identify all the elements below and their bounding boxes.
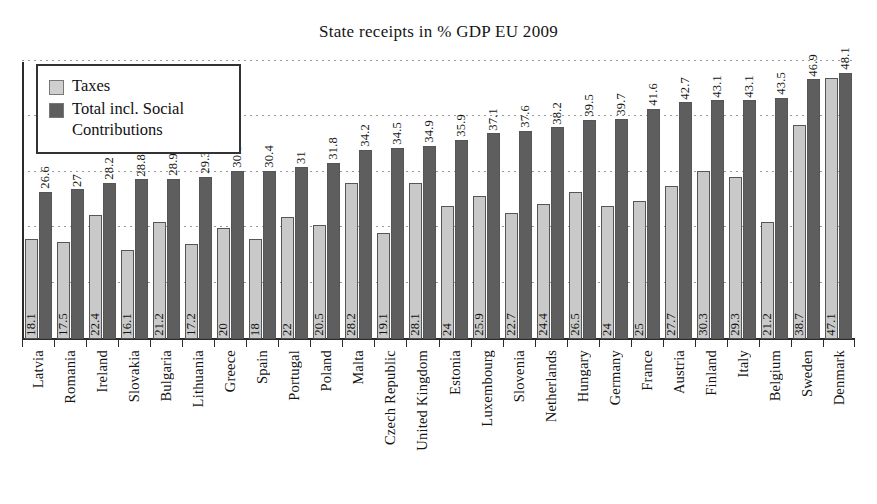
bar-taxes[interactable]	[281, 217, 294, 339]
bar-value-label-total: 30.4	[263, 145, 276, 168]
bar-value-label-taxes: 22.7	[505, 313, 518, 336]
bar-value-label-taxes: 16.1	[121, 313, 134, 336]
x-axis-tick	[439, 338, 440, 347]
bar-total[interactable]	[391, 148, 404, 339]
x-axis-tick	[471, 338, 472, 347]
bar-total[interactable]	[359, 150, 372, 339]
bar-total[interactable]	[839, 73, 852, 339]
bar-total[interactable]	[775, 98, 788, 339]
bar-taxes[interactable]	[825, 78, 838, 339]
bar-total[interactable]	[615, 119, 628, 339]
x-axis-category-label: Greece	[222, 350, 239, 392]
x-axis-tick	[182, 338, 183, 347]
bar-total[interactable]	[103, 183, 116, 339]
x-axis-tick	[118, 338, 119, 347]
bar-total[interactable]	[295, 167, 308, 339]
x-axis-category-label: Romania	[62, 350, 79, 404]
bar-value-label-taxes: 18.1	[25, 313, 38, 336]
x-axis-tick	[214, 338, 215, 347]
bar-total[interactable]	[71, 189, 84, 339]
x-axis-tick	[503, 338, 504, 347]
x-axis-tick	[150, 338, 151, 347]
bar-value-label-total: 37.1	[487, 108, 500, 131]
x-axis-category-label: Latvia	[30, 350, 47, 388]
bar-value-label-taxes: 21.2	[761, 313, 774, 336]
legend-label-taxes: Taxes	[72, 75, 110, 96]
bar-group: 2231	[281, 62, 308, 339]
bar-value-label-taxes: 28.2	[345, 313, 358, 336]
bar-total[interactable]	[519, 131, 532, 339]
bar-group: 2435.9	[441, 62, 468, 339]
bar-value-label-total: 28.8	[135, 154, 148, 177]
bar-taxes[interactable]	[601, 206, 614, 339]
x-axis-category-labels: LatviaRomaniaIrelandSlovakiaBulgariaLith…	[22, 350, 855, 500]
x-axis-category-label: Netherlands	[543, 350, 560, 422]
x-axis-tick	[854, 338, 855, 347]
bar-value-label-total: 41.6	[647, 83, 660, 106]
x-axis-category-label: Belgium	[767, 350, 784, 401]
x-axis-category-label: Poland	[318, 350, 335, 391]
x-axis-tick	[342, 338, 343, 347]
x-axis-category-label: Estonia	[447, 350, 464, 395]
bar-group: 22.737.6	[505, 62, 532, 339]
bar-taxes[interactable]	[793, 125, 806, 339]
bar-total[interactable]	[199, 177, 212, 339]
bar-value-label-taxes: 17.2	[185, 313, 198, 336]
bar-value-label-total: 34.9	[423, 120, 436, 143]
bar-value-label-total: 26.6	[39, 166, 52, 189]
bar-total[interactable]	[167, 179, 180, 339]
bar-group: 38.746.9	[793, 62, 820, 339]
bar-total[interactable]	[135, 179, 148, 339]
bar-total[interactable]	[263, 171, 276, 339]
x-axis-ticks	[22, 338, 855, 347]
bar-value-label-taxes: 38.7	[793, 313, 806, 336]
x-axis-category-label: Denmark	[831, 350, 848, 405]
bar-value-label-taxes: 22.4	[89, 313, 102, 336]
x-axis-tick	[22, 338, 23, 347]
bar-value-label-total: 43.1	[711, 75, 724, 98]
x-axis-category-label: Italy	[735, 350, 752, 378]
x-axis-category-label: Slovakia	[126, 350, 143, 402]
bar-value-label-total: 38.2	[551, 102, 564, 125]
bar-taxes[interactable]	[633, 201, 646, 340]
bar-value-label-total: 43.1	[743, 75, 756, 98]
bar-total[interactable]	[679, 102, 692, 339]
bar-total[interactable]	[583, 120, 596, 339]
bar-value-label-taxes: 25	[633, 323, 646, 336]
bar-total[interactable]	[711, 100, 724, 339]
bar-total[interactable]	[551, 127, 564, 339]
bar-total[interactable]	[231, 171, 244, 339]
bar-total[interactable]	[327, 163, 340, 339]
x-axis-category-label: United Kingdom	[414, 350, 431, 451]
x-axis-tick	[278, 338, 279, 347]
bar-total[interactable]	[647, 109, 660, 339]
bar-total[interactable]	[807, 79, 820, 339]
bar-value-label-taxes: 22	[281, 323, 294, 336]
bar-value-label-taxes: 26.5	[569, 313, 582, 336]
x-axis-tick	[246, 338, 247, 347]
chart-legend: Taxes Total incl. Social Contributions	[36, 64, 241, 154]
bar-group: 28.134.9	[409, 62, 436, 339]
x-axis-tick	[695, 338, 696, 347]
bar-group: 21.243.5	[761, 62, 788, 339]
bar-group: 25.937.1	[473, 62, 500, 339]
bar-value-label-taxes: 20.5	[313, 313, 326, 336]
x-axis-tick	[535, 338, 536, 347]
x-axis-category-label: Lithuania	[190, 350, 207, 407]
bar-total[interactable]	[455, 140, 468, 339]
x-axis-category-label: Slovenia	[511, 350, 528, 402]
bar-total[interactable]	[39, 192, 52, 339]
bar-value-label-total: 37.6	[519, 105, 532, 128]
bar-total[interactable]	[743, 100, 756, 339]
bar-value-label-taxes: 17.5	[57, 313, 70, 336]
bar-value-label-taxes: 28.1	[409, 313, 422, 336]
gridline	[22, 60, 855, 61]
bar-total[interactable]	[423, 146, 436, 339]
bar-value-label-total: 27	[71, 174, 84, 187]
bar-taxes[interactable]	[441, 206, 454, 339]
x-axis-tick	[54, 338, 55, 347]
x-axis-category-label: Spain	[254, 350, 271, 384]
bar-value-label-total: 46.9	[807, 54, 820, 77]
legend-item-total: Total incl. Social Contributions	[49, 98, 228, 140]
bar-total[interactable]	[487, 133, 500, 339]
